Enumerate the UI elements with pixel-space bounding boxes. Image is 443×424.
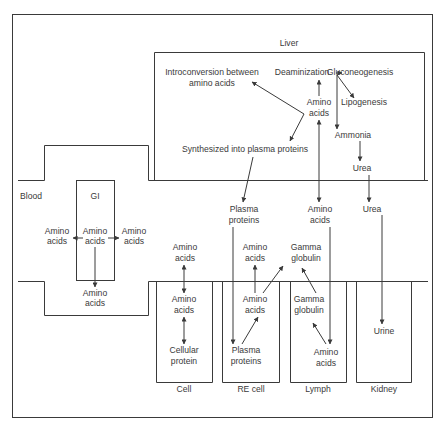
- blood-amino-acids: Aminoacids: [308, 204, 333, 225]
- arrow-lymph-gamma-blood: [302, 268, 316, 293]
- lymph-amino-acids: Aminoacids: [314, 347, 339, 368]
- ammonia-text: Ammonia: [335, 130, 372, 140]
- gi-center-amino: Aminoacids: [83, 226, 108, 246]
- kidney-label: Kidney: [371, 384, 398, 394]
- arrow-synthesized-plasma: [243, 157, 253, 202]
- cell-protein: Cellularprotein: [169, 345, 198, 366]
- blood-cell-amino: Aminoacids: [173, 242, 198, 263]
- re-plasma-proteins: Plasmaproteins: [231, 345, 262, 366]
- blood-re-amino: Aminoacids: [243, 242, 268, 263]
- blood-gamma-globulin: Gammaglobulin: [291, 242, 322, 263]
- lymph-gamma-globulin: Gammaglobulin: [294, 294, 325, 315]
- cell-label: Cell: [177, 384, 192, 394]
- amino-acid-metabolism-diagram: Liver Blood GI Aminoacids Aminoacids Ami…: [0, 0, 443, 424]
- blood-plasma-proteins: Plasmaproteins: [229, 204, 260, 225]
- arrow-amino-introconversion: [252, 82, 304, 114]
- gi-left-amino: Aminoacids: [45, 226, 70, 246]
- synthesized-text: Synthesized into plasma proteins: [182, 144, 308, 154]
- arrow-re-plasma-amino: [242, 317, 258, 344]
- gi-right-amino: Aminoacids: [122, 226, 147, 246]
- liver-urea-text: Urea: [353, 163, 372, 173]
- blood-urea: Urea: [363, 204, 382, 214]
- gi-bottom-amino: Aminoacids: [83, 288, 108, 308]
- arrow-deamination-lipogenesis: [337, 75, 354, 98]
- liver-amino-text: Aminoacids: [307, 97, 332, 118]
- introconversion-text: Introconversion betweenamino acids: [165, 67, 259, 88]
- lipogenesis-text: Lipogenesis: [341, 97, 387, 107]
- gi-label: GI: [90, 191, 99, 201]
- deamination-text: Deaminization: [275, 67, 330, 77]
- kidney-urine: Urine: [374, 326, 395, 336]
- liver-label: Liver: [280, 38, 299, 48]
- arrow-amino-synthesized: [290, 114, 304, 141]
- re-amino-acids: Aminoacids: [243, 294, 268, 315]
- arrow-lymph-amino-gamma: [313, 323, 326, 344]
- blood-label: Blood: [20, 191, 42, 201]
- re-cell-label: RE cell: [237, 384, 264, 394]
- cell-amino-acids: Aminoacids: [172, 294, 197, 315]
- lymph-label: Lymph: [305, 384, 331, 394]
